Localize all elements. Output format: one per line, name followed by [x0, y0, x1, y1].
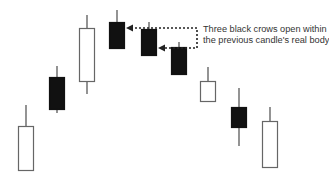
annotation-line-1: Three black crows open within — [203, 24, 329, 35]
candle-body-black — [232, 108, 247, 128]
candle-body-black — [172, 48, 187, 75]
pattern-annotation: Three black crows open within the previo… — [203, 24, 329, 46]
arrowhead-icon — [158, 45, 165, 52]
candle-body-black — [110, 23, 125, 49]
candle-body-white — [19, 127, 34, 171]
candle-body-white — [201, 82, 216, 102]
annotation-line-2: the previous candle's real body — [203, 35, 329, 46]
candle-body-black — [142, 30, 157, 56]
candle-body-white — [80, 29, 95, 82]
candle-body-white — [263, 122, 278, 168]
arrowhead-icon — [126, 25, 133, 32]
candle-body-black — [50, 78, 65, 110]
